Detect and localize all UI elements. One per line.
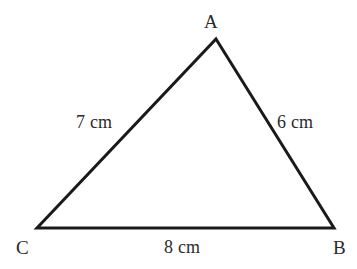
vertex-label-b: B <box>333 238 346 257</box>
side-label-ab: 6 cm <box>277 113 313 131</box>
triangle-outline <box>37 39 334 228</box>
triangle-shape <box>0 0 357 269</box>
vertex-label-a: A <box>204 12 218 31</box>
side-label-ca: 7 cm <box>76 113 112 131</box>
triangle-diagram: A C B 7 cm 6 cm 8 cm <box>0 0 357 269</box>
vertex-label-c: C <box>16 238 29 257</box>
side-label-cb: 8 cm <box>164 238 200 256</box>
